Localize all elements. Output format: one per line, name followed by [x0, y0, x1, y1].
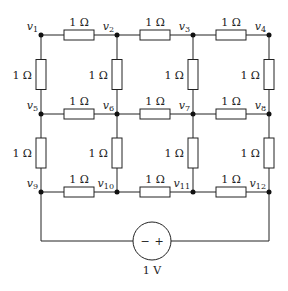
resistor-value: 1 Ω	[145, 95, 165, 108]
node-label: v6	[103, 99, 114, 113]
resistor-body	[36, 60, 46, 90]
resistor-body	[216, 109, 246, 119]
resistor-body	[188, 138, 198, 168]
node-label: v4	[255, 20, 266, 34]
node-dot	[267, 112, 272, 117]
node-dot	[115, 190, 120, 195]
resistor-v6-v10: 1 Ω	[88, 114, 122, 192]
resistor-body	[140, 109, 170, 119]
resistor-value: 1 Ω	[69, 16, 89, 29]
resistor-value: 1 Ω	[12, 147, 32, 160]
resistor-body	[216, 30, 246, 40]
resistor-body	[140, 30, 170, 40]
minus-sign: −	[140, 235, 149, 248]
resistor-body	[112, 60, 122, 90]
resistor-value: 1 Ω	[88, 147, 108, 160]
node-dot	[115, 112, 120, 117]
node-label: v1	[27, 20, 38, 34]
resistor-body	[264, 138, 274, 168]
resistor-body	[36, 138, 46, 168]
resistor-value: 1 Ω	[221, 173, 241, 186]
node-dot	[191, 112, 196, 117]
resistor-body	[64, 109, 94, 119]
resistor-value: 1 Ω	[240, 69, 260, 82]
node-dot	[267, 190, 272, 195]
resistor-value: 1 Ω	[221, 95, 241, 108]
node-label: v10	[98, 177, 114, 191]
resistor-value: 1 Ω	[69, 173, 89, 186]
resistors: 1 Ω1 Ω1 Ω1 Ω1 Ω1 Ω1 Ω1 Ω1 Ω1 Ω1 Ω1 Ω1 Ω1…	[12, 16, 274, 197]
node-dot	[115, 33, 120, 38]
source-circle	[133, 222, 171, 260]
resistor-value: 1 Ω	[69, 95, 89, 108]
circuit-svg: 1 Ω1 Ω1 Ω1 Ω1 Ω1 Ω1 Ω1 Ω1 Ω1 Ω1 Ω1 Ω1 Ω1…	[0, 0, 288, 291]
resistor-v8-v12: 1 Ω	[240, 114, 274, 192]
resistor-body	[216, 187, 246, 197]
resistor-body	[264, 60, 274, 90]
resistor-body	[64, 30, 94, 40]
node-dot	[191, 190, 196, 195]
resistor-body	[112, 138, 122, 168]
node-label: v8	[255, 99, 266, 113]
resistor-value: 1 Ω	[164, 69, 184, 82]
circuit-diagram: 1 Ω1 Ω1 Ω1 Ω1 Ω1 Ω1 Ω1 Ω1 Ω1 Ω1 Ω1 Ω1 Ω1…	[0, 0, 288, 291]
node-label: v2	[103, 20, 114, 34]
resistor-v7-v11: 1 Ω	[164, 114, 198, 192]
resistor-body	[64, 187, 94, 197]
voltage-source: −+1 V	[133, 222, 171, 277]
resistor-value: 1 Ω	[88, 69, 108, 82]
node-label: v9	[27, 177, 38, 191]
node-dot	[39, 190, 44, 195]
source-value: 1 V	[143, 264, 162, 277]
node-label: v12	[250, 177, 266, 191]
resistor-value: 1 Ω	[145, 173, 165, 186]
plus-sign: +	[154, 235, 163, 248]
node-dot	[267, 33, 272, 38]
node-label: v5	[27, 99, 38, 113]
node-label: v11	[174, 177, 190, 191]
node-dot	[191, 33, 196, 38]
resistor-value: 1 Ω	[164, 147, 184, 160]
node-label: v7	[179, 99, 190, 113]
node-dot	[39, 112, 44, 117]
resistor-value: 1 Ω	[221, 16, 241, 29]
resistor-value: 1 Ω	[240, 147, 260, 160]
node-label: v3	[179, 20, 190, 34]
resistor-body	[188, 60, 198, 90]
resistor-value: 1 Ω	[12, 69, 32, 82]
resistor-value: 1 Ω	[145, 16, 165, 29]
node-v1: v1	[27, 20, 44, 38]
node-dot	[39, 33, 44, 38]
resistor-body	[140, 187, 170, 197]
